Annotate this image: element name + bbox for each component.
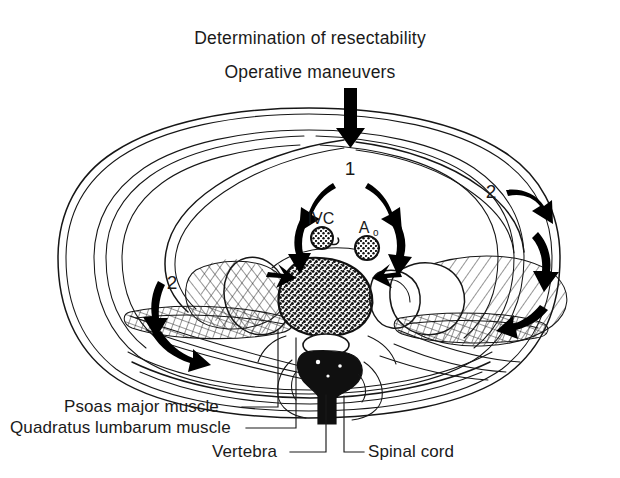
- figure-title-line2: Operative maneuvers: [224, 62, 395, 82]
- step-number-2-left: 2: [167, 272, 178, 293]
- ivc-vessel: [311, 227, 333, 249]
- aorta-vessel: [355, 236, 379, 260]
- aorta-label-subscript: o: [373, 227, 379, 238]
- label-spinal-cord: Spinal cord: [368, 442, 454, 461]
- aorta-label: A: [359, 219, 370, 236]
- step-number-2-right: 2: [486, 181, 497, 202]
- label-vertebra: Vertebra: [212, 442, 278, 461]
- figure-title-line1: Determination of resectability: [194, 28, 426, 48]
- label-psoas-major-muscle: Psoas major muscle: [64, 397, 219, 416]
- cross-section-diagram: Determination of resectability Operative…: [0, 0, 620, 478]
- ivc-label: IVC: [308, 210, 335, 227]
- step-number-1: 1: [345, 158, 356, 179]
- label-quadratus-lumbarum-muscle: Quadratus lumbarum muscle: [10, 418, 231, 437]
- anatomical-figure: Determination of resectability Operative…: [0, 0, 620, 478]
